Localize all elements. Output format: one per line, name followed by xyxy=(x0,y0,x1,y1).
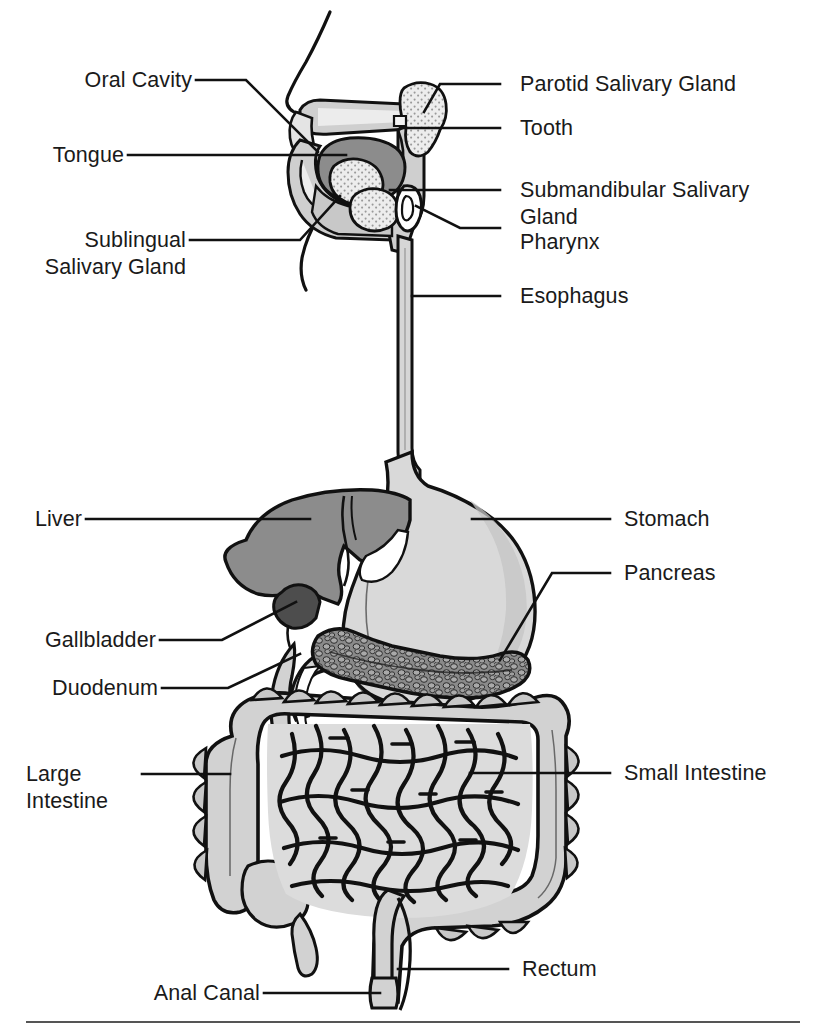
label-esophagus: Esophagus xyxy=(520,283,628,310)
esophagus-tube xyxy=(398,236,420,488)
tooth xyxy=(394,116,406,126)
label-stomach: Stomach xyxy=(624,506,710,533)
label-pancreas: Pancreas xyxy=(624,560,716,587)
label-anal-canal: Anal Canal xyxy=(0,980,260,1007)
label-pharynx: Pharynx xyxy=(520,229,600,256)
figure-page: Oral Cavity Tongue Sublingual Salivary G… xyxy=(0,0,815,1036)
label-small-intestine: Small Intestine xyxy=(624,760,767,787)
label-tooth: Tooth xyxy=(520,115,573,142)
label-parotid-salivary-gland: Parotid Salivary Gland xyxy=(520,71,736,98)
label-submandibular-salivary-gland: Submandibular Salivary Gland xyxy=(520,177,749,231)
label-duodenum: Duodenum xyxy=(0,675,158,702)
leader-pharynx xyxy=(416,206,500,228)
submandibular-salivary-gland xyxy=(350,189,398,231)
haustra-ascending xyxy=(193,748,207,880)
head-oral-region xyxy=(287,12,447,290)
small-intestine xyxy=(267,724,533,918)
label-sublingual-salivary-gland: Sublingual Salivary Gland xyxy=(0,227,186,281)
esophagus xyxy=(398,236,420,488)
gallbladder xyxy=(274,585,320,628)
label-rectum: Rectum xyxy=(522,956,597,983)
appendix xyxy=(292,914,317,976)
label-gallbladder: Gallbladder xyxy=(0,627,156,654)
label-liver: Liver xyxy=(0,506,82,533)
pharynx-inner xyxy=(402,196,413,220)
label-tongue: Tongue xyxy=(0,142,124,169)
label-large-intestine: Large Intestine xyxy=(0,761,138,815)
label-oral-cavity: Oral Cavity xyxy=(0,67,192,94)
haustra-descending xyxy=(565,746,579,878)
